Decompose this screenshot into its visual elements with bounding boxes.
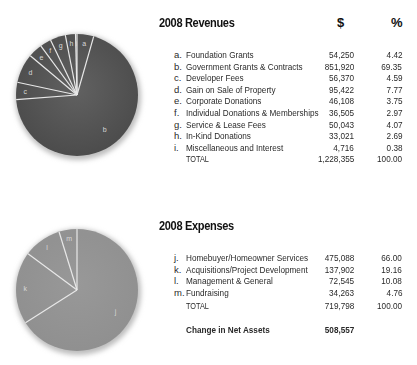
row-pct: 2.69 xyxy=(386,130,402,142)
slice-label: h xyxy=(69,40,73,47)
revenue-total-row: TOTAL1,228,355100.00 xyxy=(174,153,402,165)
slice-label: g xyxy=(59,42,63,50)
row-pct: 4.42 xyxy=(386,49,402,61)
row-letter: i. xyxy=(174,142,186,154)
row-letter: d. xyxy=(174,84,186,96)
row-amount: 72,545 xyxy=(329,275,354,287)
row-pct: 19.16 xyxy=(382,264,402,276)
row-label: TOTAL xyxy=(186,300,209,312)
row-pct: 2.97 xyxy=(386,107,402,119)
row-pct: 4.76 xyxy=(386,287,402,299)
row-letter: k. xyxy=(174,264,186,276)
expense-total-row: TOTAL719,798100.00 xyxy=(174,300,402,312)
revenue-row: b.Government Grants & Contracts851,92069… xyxy=(174,61,402,73)
percent-column-header: % xyxy=(391,15,403,30)
expense-row: l.Management & General72,54510.08 xyxy=(174,275,402,287)
row-pct: 100.00 xyxy=(377,153,402,165)
row-pct: 3.75 xyxy=(386,95,402,107)
row-label: TOTAL xyxy=(186,153,209,165)
revenues-title: 2008 Revenues xyxy=(159,15,234,30)
row-label: Acquisitions/Project Development xyxy=(186,264,308,276)
slice-label: j xyxy=(114,308,117,316)
row-amount: 46,108 xyxy=(329,95,354,107)
row-label: Homebuyer/Homeowner Services xyxy=(186,252,308,264)
row-label: Gain on Sale of Property xyxy=(186,84,275,96)
revenue-row: a.Foundation Grants54,2504.42 xyxy=(174,49,402,61)
slice-label: k xyxy=(23,285,27,292)
row-pct: 100.00 xyxy=(377,300,402,312)
row-pct: 7.77 xyxy=(386,84,402,96)
row-letter: g. xyxy=(174,119,186,131)
row-label: Service & Lease Fees xyxy=(186,119,266,131)
expense-row: j.Homebuyer/Homeowner Services475,08866.… xyxy=(174,252,402,264)
row-amount: 56,370 xyxy=(329,72,354,84)
slice-label: m xyxy=(66,235,72,242)
slice-label: d xyxy=(28,69,32,76)
expense-row: m.Fundraising34,2634.76 xyxy=(174,287,402,299)
row-amount: 508,557 xyxy=(324,324,354,336)
revenue-row: c.Developer Fees56,3704.59 xyxy=(174,72,402,84)
slice-label: a xyxy=(82,40,86,47)
row-pct: 4.07 xyxy=(386,119,402,131)
revenue-row: g.Service & Lease Fees50,0434.07 xyxy=(174,119,402,131)
row-amount: 95,422 xyxy=(329,84,354,96)
row-pct: 69.35 xyxy=(382,61,402,73)
amount-column-header: $ xyxy=(337,15,344,30)
row-letter: m. xyxy=(174,287,186,299)
slice-label: b xyxy=(103,126,107,133)
row-letter: b. xyxy=(174,61,186,73)
expenses-title: 2008 Expenses xyxy=(159,218,234,233)
row-label: Management & General xyxy=(186,275,273,287)
row-label: Fundraising xyxy=(186,287,229,299)
row-amount: 34,263 xyxy=(329,287,354,299)
revenue-row: h.In-Kind Donations33,0212.69 xyxy=(174,130,402,142)
row-letter: h. xyxy=(174,130,186,142)
expense-pie-chart: jklm xyxy=(0,205,155,365)
row-pct: 66.00 xyxy=(382,252,402,264)
revenue-row: e.Corporate Donations46,1083.75 xyxy=(174,95,402,107)
row-amount: 50,043 xyxy=(329,119,354,131)
row-amount: 475,088 xyxy=(324,252,354,264)
revenue-pie-chart: abcdefghi xyxy=(0,10,155,190)
row-label: Developer Fees xyxy=(186,72,244,84)
slice-label: c xyxy=(24,88,28,95)
revenue-row: f.Individual Donations & Memberships36,5… xyxy=(174,107,402,119)
row-pct: 0.38 xyxy=(386,142,402,154)
row-amount: 851,920 xyxy=(324,61,354,73)
row-letter: f. xyxy=(174,107,186,119)
row-label: Individual Donations & Memberships xyxy=(186,107,319,119)
row-amount: 137,902 xyxy=(324,264,354,276)
row-amount: 1,228,355 xyxy=(318,153,354,165)
row-letter: e. xyxy=(174,95,186,107)
row-label: Government Grants & Contracts xyxy=(186,61,303,73)
row-label: Miscellaneous and Interest xyxy=(186,142,283,154)
row-amount: 33,021 xyxy=(329,130,354,142)
row-letter: j. xyxy=(174,252,186,264)
row-letter: c. xyxy=(174,72,186,84)
row-label: In-Kind Donations xyxy=(186,130,251,142)
row-letter: a. xyxy=(174,49,186,61)
expense-row: k.Acquisitions/Project Development137,90… xyxy=(174,264,402,276)
row-amount: 719,798 xyxy=(324,300,354,312)
row-amount: 54,250 xyxy=(329,49,354,61)
net-assets-row: Change in Net Assets508,557 xyxy=(174,324,402,336)
revenue-row: d.Gain on Sale of Property95,4227.77 xyxy=(174,84,402,96)
revenue-row: i.Miscellaneous and Interest4,7160.38 xyxy=(174,142,402,154)
row-pct: 4.59 xyxy=(386,72,402,84)
row-label: Foundation Grants xyxy=(186,49,254,61)
row-label: Corporate Donations xyxy=(186,95,261,107)
row-letter: l. xyxy=(174,275,186,287)
row-label: Change in Net Assets xyxy=(186,324,270,336)
row-pct: 10.08 xyxy=(382,275,402,287)
slice-label: f xyxy=(49,47,51,54)
row-amount: 36,505 xyxy=(329,107,354,119)
slice-label: e xyxy=(40,54,44,61)
row-amount: 4,716 xyxy=(334,142,354,154)
